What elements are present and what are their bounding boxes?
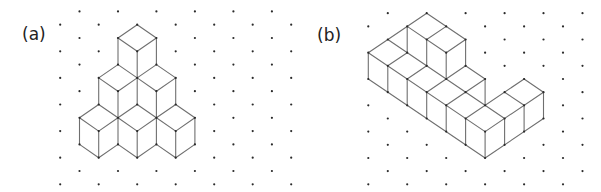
grid-dot — [465, 65, 467, 67]
cube-edge — [176, 105, 195, 118]
grid-dot — [98, 24, 100, 26]
grid-dot — [136, 103, 138, 105]
grid-dot — [406, 157, 408, 159]
cube-edge — [118, 118, 137, 131]
cube-edge — [524, 79, 543, 92]
grid-dot — [445, 104, 447, 106]
grid-dot — [155, 117, 157, 119]
grid-dot — [387, 12, 389, 14]
grid-dot — [98, 50, 100, 52]
grid-dot — [194, 143, 196, 145]
grid-dot — [136, 24, 138, 26]
grid-dot — [581, 144, 583, 146]
grid-dot — [562, 157, 564, 159]
grid-dot — [426, 117, 428, 119]
cube-edge — [118, 65, 137, 78]
cube-edge — [137, 118, 156, 131]
grid-dot — [465, 12, 467, 14]
grid-dot — [232, 170, 234, 172]
grid-dot — [232, 117, 234, 119]
grid-dot — [232, 143, 234, 145]
grid-dot — [78, 170, 80, 172]
grid-dot — [59, 77, 61, 79]
grid-dot — [271, 90, 273, 92]
grid-dot — [59, 103, 61, 105]
grid-dot — [367, 183, 369, 185]
grid-dot — [136, 50, 138, 52]
grid-dot — [98, 103, 100, 105]
grid-dot — [542, 117, 544, 119]
grid-dot — [562, 131, 564, 133]
grid-dot — [252, 130, 254, 132]
grid-dot — [175, 183, 177, 185]
grid-dot — [78, 10, 80, 12]
cube-edge — [156, 78, 175, 91]
grid-dot — [484, 78, 486, 80]
cube-edge — [137, 105, 156, 118]
cube-edge — [137, 144, 156, 157]
grid-dot — [117, 10, 119, 12]
grid-dot — [387, 144, 389, 146]
grid-dot — [194, 90, 196, 92]
cube-edge — [99, 118, 118, 131]
grid-dot — [523, 131, 525, 133]
grid-dot — [542, 12, 544, 14]
grid-dot — [387, 117, 389, 119]
grid-dot — [78, 90, 80, 92]
grid-dot — [465, 38, 467, 40]
grid-dot — [232, 90, 234, 92]
panel-a: (a) — [22, 10, 292, 185]
cube-edge — [176, 118, 195, 131]
grid-dot — [155, 37, 157, 39]
grid-dot — [542, 144, 544, 146]
grid-dot — [406, 183, 408, 185]
grid-dot — [426, 38, 428, 40]
cube-edge — [99, 78, 118, 91]
grid-dot — [504, 91, 506, 93]
cube-edge — [137, 65, 156, 78]
grid-dot — [155, 90, 157, 92]
grid-dot — [59, 157, 61, 159]
grid-dot — [194, 64, 196, 66]
grid-dot — [175, 130, 177, 132]
cube-edge — [118, 38, 137, 51]
grid-dot — [290, 77, 292, 79]
grid-dot — [367, 104, 369, 106]
grid-dot — [504, 65, 506, 67]
grid-dot — [78, 143, 80, 145]
grid-dot — [581, 38, 583, 40]
grid-dot — [445, 183, 447, 185]
grid-dot — [387, 65, 389, 67]
grid-dot — [175, 24, 177, 26]
cube-edge — [427, 26, 447, 39]
cube-edge — [137, 25, 156, 38]
grid-dot — [406, 52, 408, 54]
grid-dot — [290, 130, 292, 132]
grid-dot — [581, 91, 583, 93]
grid-dot — [523, 25, 525, 27]
grid-dot — [406, 131, 408, 133]
grid-dot — [175, 103, 177, 105]
grid-dot — [504, 117, 506, 119]
grid-dot — [367, 52, 369, 54]
grid-dot — [78, 117, 80, 119]
grid-dot — [542, 65, 544, 67]
grid-dot — [252, 50, 254, 52]
cube-edge — [118, 78, 137, 91]
grid-dot — [271, 64, 273, 66]
grid-dot — [155, 170, 157, 172]
grid-dot — [562, 78, 564, 80]
grid-dot — [213, 130, 215, 132]
grid-dot — [252, 24, 254, 26]
grid-dot — [252, 103, 254, 105]
cube-edge — [137, 38, 156, 51]
grid-dot — [445, 52, 447, 54]
grid-dot — [290, 183, 292, 185]
grid-dot — [290, 24, 292, 26]
cube-edge — [156, 65, 175, 78]
grid-dot — [504, 144, 506, 146]
cube-edge — [80, 118, 99, 131]
grid-dot — [194, 170, 196, 172]
cube-edge — [99, 65, 118, 78]
grid-dot — [387, 38, 389, 40]
